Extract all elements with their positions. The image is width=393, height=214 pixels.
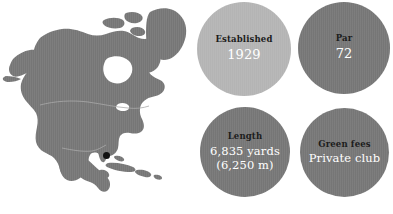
stat-circle-established[interactable]: Established 1929 (197, 2, 291, 96)
stat-content-par: Par 72 (330, 34, 359, 61)
map-panel (0, 0, 193, 214)
stat-value-green-fees: Private club (309, 152, 380, 165)
stat-circle-green-fees[interactable]: Green fees Private club (300, 108, 389, 197)
baffin-island (136, 50, 161, 72)
arctic-island-b (124, 12, 142, 23)
golf-course-infographic: Established 1929 Par 72 Length 6,835 yar… (0, 0, 393, 214)
stat-label-par: Par (336, 34, 353, 44)
cuba-island (106, 163, 136, 172)
stat-label-length: Length (210, 132, 280, 142)
bahamas-island (114, 156, 124, 162)
puerto-rico-island (154, 175, 162, 180)
stat-content-length: Length 6,835 yards (6,250 m) (204, 132, 286, 171)
stat-value-established: 1929 (215, 48, 272, 63)
stats-panel: Established 1929 Par 72 Length 6,835 yar… (193, 0, 393, 214)
hispaniola-island (135, 170, 151, 178)
stat-circle-length[interactable]: Length 6,835 yards (6,250 m) (200, 107, 290, 197)
aleutian-tail (3, 76, 21, 82)
north-america-map-svg (0, 0, 193, 214)
arctic-island-a (103, 18, 125, 29)
location-marker-icon (103, 152, 110, 159)
stat-value-par: 72 (336, 47, 353, 62)
stat-content-established: Established 1929 (209, 35, 278, 62)
landmass-group (3, 8, 186, 192)
stat-circle-par[interactable]: Par 72 (298, 2, 390, 94)
stat-label-established: Established (215, 35, 272, 45)
stat-value-length-metric: (6,250 m) (210, 159, 280, 172)
stat-value-length: 6,835 yards (210, 145, 280, 158)
stat-content-green-fees: Green fees Private club (303, 140, 386, 165)
stat-label-green-fees: Green fees (309, 140, 380, 150)
